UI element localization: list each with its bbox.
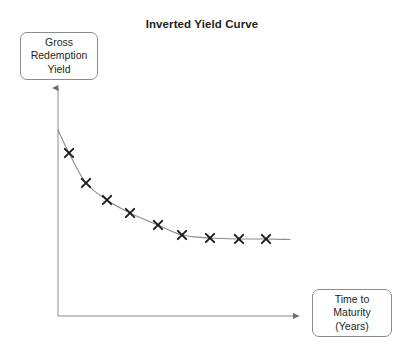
axes-group: [58, 88, 299, 316]
data-point-marker: [82, 179, 90, 187]
data-point-marker: [103, 196, 111, 204]
plot-area: [0, 0, 404, 356]
yield-curve-line: [58, 130, 290, 240]
data-point-marker: [126, 209, 134, 217]
chart-figure: Inverted Yield Curve Gross Redemption Yi…: [0, 0, 404, 356]
yield-curve-group: [58, 130, 290, 243]
data-point-marker: [65, 149, 73, 157]
data-point-marker: [154, 221, 162, 229]
data-point-marker: [178, 231, 186, 239]
